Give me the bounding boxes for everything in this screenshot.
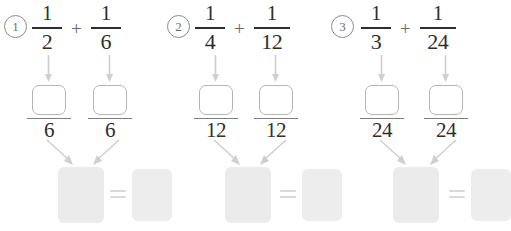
problem-2: 2 1 4 + 1 12 12	[163, 0, 333, 231]
plus-operator-1: +	[71, 16, 82, 40]
problem-index-2: 2	[167, 15, 190, 38]
fraction-2-right: 1 12	[254, 3, 290, 52]
numerator-input-box[interactable]	[429, 85, 463, 115]
fraction-1-right: 1 6	[91, 3, 121, 52]
expression-3: 1 3 + 1 24	[361, 6, 456, 50]
sum-result-box[interactable]	[393, 167, 439, 223]
denominator: 12	[261, 30, 282, 53]
equals-sign-icon	[110, 190, 126, 199]
numerator-input-box[interactable]	[259, 85, 293, 115]
numerator: 1	[205, 3, 215, 25]
down-arrow-icon	[271, 55, 280, 83]
expression-1: 1 2 + 1 6	[32, 6, 121, 50]
fraction-3-right: 1 24	[420, 3, 456, 52]
denominator: 4	[205, 30, 216, 53]
numerator: 1	[42, 3, 52, 25]
expression-2: 1 4 + 1 12	[195, 6, 290, 50]
problem-1: 1 1 2 + 1 6 6	[0, 0, 170, 231]
numerator: 1	[371, 3, 381, 25]
diagonal-arrow-icon	[254, 138, 288, 168]
answer-slot-1-left: 6	[25, 85, 73, 141]
numerator-input-box[interactable]	[93, 85, 127, 115]
plus-operator-3: +	[400, 16, 411, 40]
down-arrow-icon	[441, 55, 450, 83]
problem-index-1: 1	[4, 15, 27, 38]
diagonal-arrow-icon	[45, 138, 79, 168]
numerator-input-box[interactable]	[365, 85, 399, 115]
diagonal-arrow-icon	[424, 138, 458, 168]
down-arrow-icon	[105, 55, 114, 83]
problem-index-3: 3	[331, 15, 354, 38]
sum-result-box[interactable]	[225, 167, 271, 223]
diagonal-arrow-icon	[87, 138, 121, 168]
final-answer-box[interactable]	[471, 169, 511, 221]
down-arrow-icon	[44, 55, 53, 83]
fraction-3-left: 1 3	[361, 3, 391, 52]
sum-result-box[interactable]	[58, 167, 104, 223]
problem-3: 3 1 3 + 1 24 24	[325, 0, 500, 231]
answer-slot-2-right: 12	[252, 85, 300, 141]
fraction-2-left: 1 4	[195, 3, 225, 52]
denominator: 24	[427, 30, 448, 53]
numerator: 1	[267, 3, 277, 25]
numerator: 1	[433, 3, 443, 25]
numerator-input-box[interactable]	[199, 85, 233, 115]
numerator: 1	[101, 3, 111, 25]
answer-slot-1-right: 6	[86, 85, 134, 141]
diagonal-arrow-icon	[378, 138, 412, 168]
answer-slot-2-left: 12	[192, 85, 240, 141]
numerator-input-box[interactable]	[32, 85, 66, 115]
denominator: 6	[100, 30, 111, 53]
answer-slot-3-right: 24	[422, 85, 470, 141]
denominator: 3	[371, 30, 382, 53]
diagonal-arrow-icon	[212, 138, 246, 168]
down-arrow-icon	[377, 55, 386, 83]
answer-slot-3-left: 24	[358, 85, 406, 141]
down-arrow-icon	[211, 55, 220, 83]
fraction-1-left: 1 2	[32, 3, 62, 52]
denominator: 2	[42, 30, 53, 53]
equals-sign-icon	[449, 190, 465, 199]
equals-sign-icon	[280, 190, 296, 199]
plus-operator-2: +	[234, 16, 245, 40]
